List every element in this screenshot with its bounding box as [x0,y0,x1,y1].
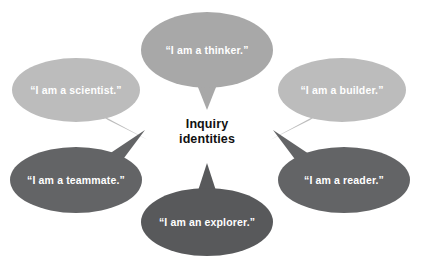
center-label-group: Inquiry identities [179,117,235,146]
bubble-builder-label: “I am a builder.” [300,84,383,96]
center-label-line1: Inquiry [186,117,228,131]
center-label-line2: identities [179,132,235,146]
bubble-teammate-label: “I am a teammate.” [27,174,125,186]
bubble-scientist-label: “I am a scientist.” [30,84,122,96]
inquiry-identities-diagram: “I am a scientist.” “I am a builder.” “I… [0,0,421,269]
diagram-canvas: “I am a scientist.” “I am a builder.” “I… [0,0,421,269]
bubble-explorer[interactable]: “I am an explorer.” [141,163,273,256]
bubble-explorer-label: “I am an explorer.” [159,216,255,228]
bubble-scientist[interactable]: “I am a scientist.” [12,58,148,140]
bubble-reader[interactable]: “I am a reader.” [273,130,410,213]
bubble-builder[interactable]: “I am a builder.” [270,58,406,140]
bubble-thinker[interactable]: “I am a thinker.” [141,12,273,110]
bubble-thinker-label: “I am a thinker.” [165,44,248,56]
bubble-reader-label: “I am a reader.” [304,174,384,186]
bubble-teammate[interactable]: “I am a teammate.” [10,130,145,213]
